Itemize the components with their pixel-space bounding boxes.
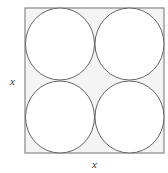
side-label-bottom: x <box>91 158 97 170</box>
square-circles-diagram: x x <box>0 0 168 173</box>
side-label-left: x <box>9 75 15 87</box>
circle-bottom-left <box>26 81 95 153</box>
circle-top-right <box>95 8 164 80</box>
circle-top-left <box>26 8 95 80</box>
circle-bottom-right <box>95 81 164 153</box>
